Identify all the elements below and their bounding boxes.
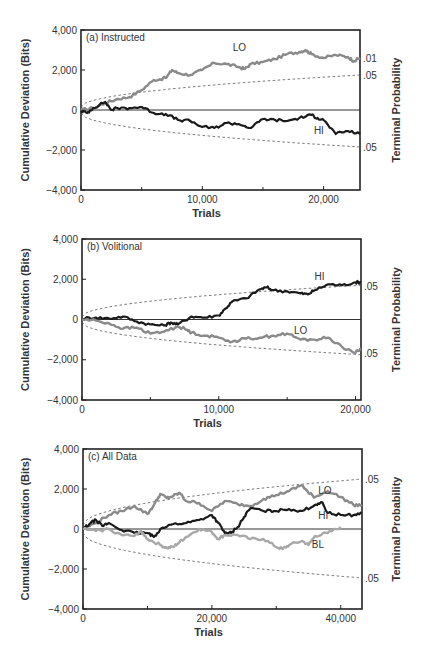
y-tick-label: 4,000 (54, 444, 79, 455)
y-tick-label: −4,000 (46, 185, 77, 196)
figure-canvas: 4,0002,0000−2,000−4,000010,00020,000LOHI… (0, 0, 422, 660)
series-label-hi: HI (314, 125, 324, 136)
y-axis-title: Cumulative Deviation (Bits) (19, 248, 31, 391)
series-label-hi: HI (315, 271, 325, 282)
right-axis-title: Terminal Probability (390, 266, 402, 372)
series-line-lo (81, 50, 360, 110)
probability-label: .05 (363, 70, 377, 81)
probability-label: .05 (364, 281, 378, 292)
right-axis-title: Terminal Probability (390, 476, 402, 582)
x-tick-label: 40,000 (325, 613, 356, 624)
panel-title: (a) Instructed (86, 32, 145, 43)
x-tick-label: 0 (79, 404, 85, 415)
x-axis-title: Trials (194, 626, 223, 638)
series-label-lo: LO (318, 485, 332, 496)
x-tick-label: 0 (80, 613, 86, 624)
y-tick-label: −4,000 (48, 604, 79, 615)
probability-label: .05 (363, 142, 377, 153)
panel-volitional: 4,0002,0000−2,000−4,000010,00020,000HILO… (19, 234, 402, 430)
y-tick-label: 0 (73, 524, 79, 535)
x-tick-label: 10,000 (187, 194, 218, 205)
x-tick-label: 20,000 (308, 194, 339, 205)
probability-label: .05 (365, 474, 379, 485)
series-label-lo: LO (294, 325, 308, 336)
x-tick-label: 10,000 (203, 404, 234, 415)
panel-title: (b) Volitional (87, 241, 142, 252)
y-tick-label: 4,000 (53, 234, 78, 245)
y-tick-label: −4,000 (47, 395, 78, 406)
y-tick-label: 2,000 (52, 65, 77, 76)
probability-label: .05 (365, 573, 379, 584)
right-axis-title: Terminal Probability (390, 57, 402, 163)
panel-instructed: 4,0002,0000−2,000−4,000010,00020,000LOHI… (19, 25, 402, 220)
x-tick-label: 20,000 (197, 613, 228, 624)
x-tick-label: 0 (78, 194, 84, 205)
significance-envelope-upper (81, 75, 360, 107)
panel-all-data: 4,0002,0000−2,000−4,000020,00040,000LOHI… (19, 444, 402, 639)
y-tick-label: 0 (72, 314, 78, 325)
x-axis-title: Trials (193, 417, 222, 429)
y-axis-title: Cumulative Deviation (Bits) (19, 38, 31, 181)
y-tick-label: −2,000 (46, 145, 77, 156)
series-line-lo (82, 319, 361, 352)
y-tick-label: 4,000 (52, 25, 77, 36)
probability-label: .05 (364, 348, 378, 359)
series-label-bl: BL (312, 539, 325, 550)
y-tick-label: −2,000 (48, 564, 79, 575)
probability-label: .01 (363, 53, 377, 64)
y-tick-label: −2,000 (47, 354, 78, 365)
y-tick-label: 0 (71, 105, 77, 116)
series-label-lo: LO (233, 42, 247, 53)
series-label-hi: HI (318, 510, 328, 521)
y-tick-label: 2,000 (53, 274, 78, 285)
y-axis-title: Cumulative Deviation (Bits) (19, 457, 31, 600)
panel-title: (c) All Data (88, 451, 137, 462)
x-axis-title: Trials (192, 207, 221, 219)
x-tick-label: 20,000 (340, 404, 371, 415)
y-tick-label: 2,000 (54, 484, 79, 495)
